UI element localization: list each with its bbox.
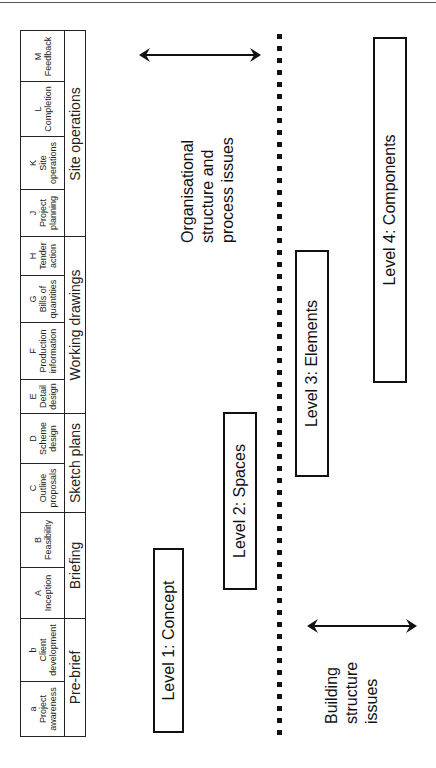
group-cell-site-operations: Site operations xyxy=(64,32,85,236)
stage-name: planning xyxy=(48,196,58,230)
annotation-line: issues xyxy=(362,624,382,724)
stage-name: Feedback xyxy=(43,37,53,77)
level-1-box: Level 1: Concept xyxy=(153,548,184,733)
stage-name: proposals xyxy=(48,468,58,507)
stage-cell-A: A Inception xyxy=(21,567,64,618)
stage-name: design xyxy=(48,383,58,410)
stage-code: J xyxy=(28,211,38,216)
stage-cell-G: G Bills of quantities xyxy=(21,275,64,322)
stages-table: a Project awareness b Client development… xyxy=(20,30,86,737)
stage-name: quantities xyxy=(48,280,58,319)
stage-cell-a: a Project awareness xyxy=(21,681,64,736)
annotation-line: Organisational xyxy=(178,93,198,243)
group-cell-briefing: Briefing xyxy=(64,512,85,618)
level-1-label: Level 1: Concept xyxy=(160,580,178,700)
group-cell-working-drawings: Working drawings xyxy=(64,236,85,413)
stage-name: Completion xyxy=(43,86,53,132)
stage-cell-M: M Feedback xyxy=(21,32,64,81)
organisational-issues-label: Organisational structure and process iss… xyxy=(178,93,238,243)
stage-code: B xyxy=(33,537,43,543)
stage-name: design xyxy=(48,425,58,452)
annotation-line: process issues xyxy=(218,93,238,243)
stage-name: Project xyxy=(38,199,48,227)
stage-name: operations xyxy=(48,142,58,184)
stage-code: F xyxy=(28,348,38,354)
stage-name: Feasibility xyxy=(43,520,53,560)
level-2-label: Level 2: Spaces xyxy=(231,444,249,558)
stage-name: Outline xyxy=(38,474,48,503)
stage-cell-D: D Scheme design xyxy=(21,413,64,463)
level-3-box: Level 3: Elements xyxy=(295,250,329,477)
stage-name: information xyxy=(48,329,58,374)
double-arrow-icon xyxy=(138,47,262,63)
stage-cell-F: F Production information xyxy=(21,322,64,379)
annotation-line: Building xyxy=(322,624,342,724)
level-3-label: Level 3: Elements xyxy=(303,300,321,427)
stage-code: D xyxy=(28,435,38,442)
dotted-divider-line xyxy=(277,32,282,735)
stage-name: Scheme xyxy=(38,422,48,455)
stage-cell-E: E Detail design xyxy=(21,379,64,413)
stage-cell-J: J Project planning xyxy=(21,189,64,236)
stage-code: E xyxy=(28,394,38,400)
stage-name: Inception xyxy=(43,575,53,612)
building-structure-issues-label: Building structure issues xyxy=(322,624,382,724)
stage-cell-H: H Tender action xyxy=(21,236,64,275)
level-4-label: Level 4: Components xyxy=(381,134,399,285)
annotation-line: structure xyxy=(342,624,362,724)
stage-name: action xyxy=(48,244,58,268)
stage-cell-L: L Completion xyxy=(21,81,64,136)
stage-name: Tender xyxy=(38,242,48,270)
stage-code: a xyxy=(28,707,38,712)
stage-name: Client xyxy=(38,639,48,662)
rotated-diagram: a Project awareness b Client development… xyxy=(0,0,436,768)
level-4-box: Level 4: Components xyxy=(373,37,407,383)
level-2-box: Level 2: Spaces xyxy=(223,412,257,590)
stage-cell-b: b Client development xyxy=(21,618,64,681)
stage-name: Project xyxy=(38,695,48,723)
annotation-line: structure and xyxy=(198,93,218,243)
stage-name: Detail xyxy=(38,385,48,408)
stage-code: A xyxy=(33,590,43,596)
stage-name: awareness xyxy=(48,687,58,731)
group-cell-pre-brief: Pre-brief xyxy=(64,618,85,736)
stage-code: M xyxy=(33,53,43,61)
stage-name: development xyxy=(48,624,58,676)
stage-code: K xyxy=(28,160,38,166)
stage-code: H xyxy=(28,253,38,260)
stage-name: Site xyxy=(38,155,48,171)
stage-cell-K: K Site operations xyxy=(21,136,64,189)
stage-code: b xyxy=(28,648,38,653)
stage-code: L xyxy=(33,107,43,112)
double-arrow-icon xyxy=(306,618,418,634)
stage-code: C xyxy=(28,485,38,492)
stage-code: G xyxy=(28,296,38,303)
group-cell-sketch-plans: Sketch plans xyxy=(64,413,85,512)
stage-name: Production xyxy=(38,329,48,372)
stage-cell-B: B Feasibility xyxy=(21,512,64,567)
stage-name: Bills of xyxy=(38,286,48,313)
stage-cell-C: C Outline proposals xyxy=(21,463,64,512)
